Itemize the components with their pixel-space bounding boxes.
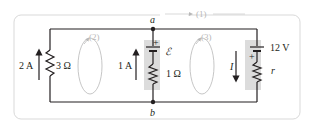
right-resistance-label: r [271, 65, 275, 76]
node-b [151, 100, 155, 104]
middle-polarity-label: + [153, 37, 159, 48]
loop-2-icon [78, 38, 102, 94]
circuit-diagram: a b 2 A 3 Ω 1 A + ℰ 1 Ω I + 12 V r (1) (… [0, 0, 313, 130]
node-a-label: a [150, 14, 155, 25]
right-emf-label: 12 V [270, 42, 290, 53]
right-polarity-label: + [249, 51, 255, 62]
middle-current-label: 1 A [118, 60, 133, 71]
middle-resistance-label: 1 Ω [166, 68, 181, 79]
node-a [151, 27, 155, 31]
right-current-label: I [229, 61, 234, 72]
middle-emf-label: ℰ [165, 46, 172, 57]
loop-1-label: (1) [196, 9, 207, 19]
loop-2-label: (2) [89, 32, 100, 42]
loop-3-icon [190, 38, 214, 94]
node-b-label: b [150, 107, 155, 118]
left-current-label: 2 A [19, 60, 34, 71]
left-resistance-label: 3 Ω [56, 60, 71, 71]
loop-3-label: (3) [201, 32, 212, 42]
